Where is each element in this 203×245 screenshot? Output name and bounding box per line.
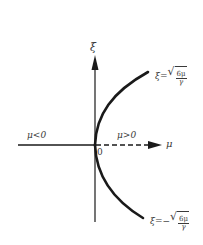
xi-axis-label: ξ [90,42,96,53]
diagram-canvas [0,0,203,245]
lower-denominator: γ [181,224,185,231]
sqrt-icon: √ [168,66,175,77]
bifurcation-diagram: ξ μ 0 μ<0 μ>0 ξ = √ 6μ γ ξ = − √ 6μ γ [0,0,203,245]
region-label-mu-positive: μ>0 [117,131,136,140]
upper-formula-eq: = [160,71,168,81]
upper-formula-sqrt: √ 6μ γ [168,66,187,86]
region-label-mu-negative: μ<0 [27,131,46,140]
lower-branch-formula: ξ = − √ 6μ γ [150,211,189,231]
lower-formula-eq: = [155,216,163,226]
upper-formula-fraction: 6μ γ [176,71,187,86]
upper-denominator: γ [179,79,183,86]
origin-label: 0 [97,148,103,157]
upper-branch-formula: ξ = √ 6μ γ [155,66,187,86]
mu-axis-arrow-icon [148,141,162,149]
lower-formula-fraction: 6μ γ [178,216,189,231]
lower-formula-sqrt: √ 6μ γ [170,211,189,231]
sqrt-icon: √ [170,211,177,222]
xi-axis-arrow-icon [92,55,99,70]
lower-formula-sign: − [163,216,171,226]
mu-axis-label: μ [166,139,173,149]
